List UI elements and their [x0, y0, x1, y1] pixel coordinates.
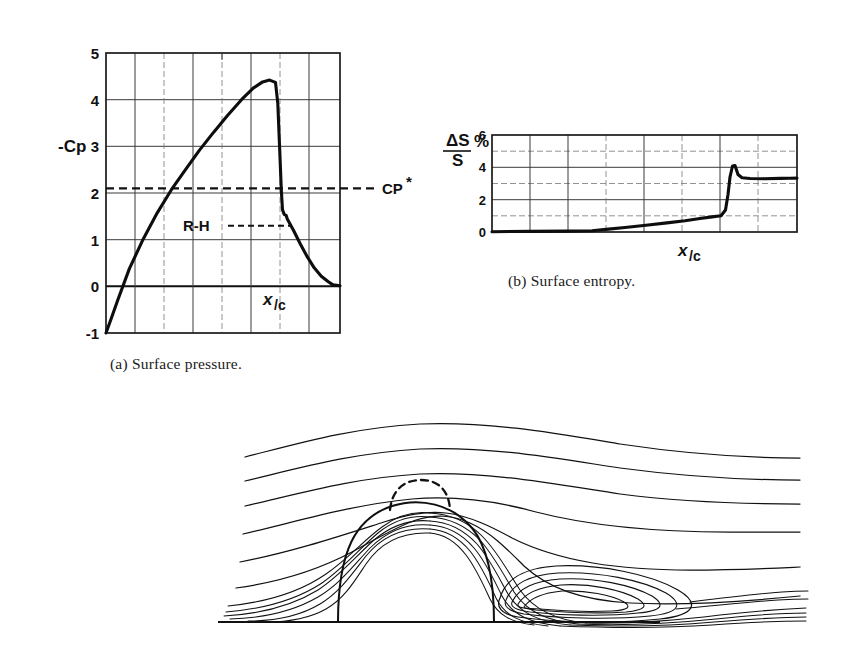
x-axis-label-a: x /c — [262, 290, 286, 313]
x-axis-label-b-main: x — [677, 241, 689, 260]
ytick-a-5: 0 — [91, 278, 99, 295]
ytick-b-2: 2 — [479, 193, 486, 208]
ytick-b-3: 0 — [479, 225, 486, 240]
y-axis-label-b-numerator: ΔS — [446, 131, 470, 150]
ytick-a-1: 4 — [91, 92, 100, 109]
y-ticklabels-a: 5 4 3 2 1 0 -1 — [86, 45, 100, 342]
grid-b — [492, 135, 797, 232]
panel-surface-entropy: 6 4 2 0 ΔS S % x /c — [430, 110, 843, 310]
y-axis-label-b-unit: % — [474, 132, 489, 151]
y-axis-label-a: -Cp — [58, 137, 86, 156]
cp-star-label: CP * — [382, 173, 412, 197]
streamlines-bump-upstream — [224, 513, 430, 622]
cp-star-text: CP — [382, 180, 403, 197]
ytick-a-6: -1 — [86, 325, 99, 342]
ytick-a-0: 5 — [91, 45, 99, 62]
streamlines-outer — [236, 424, 800, 604]
ytick-a-3: 2 — [91, 185, 99, 202]
x-axis-label-a-main: x — [262, 290, 274, 309]
pressure-curve — [106, 80, 340, 333]
ytick-b-1: 4 — [479, 160, 487, 175]
streamlines-crest — [430, 513, 586, 626]
caption-panel-a: (a) Surface pressure. — [110, 355, 242, 373]
caption-panel-b: (b) Surface entropy. — [508, 272, 635, 290]
x-axis-label-a-sub: /c — [274, 297, 286, 313]
cp-star-superscript: * — [406, 173, 412, 190]
ytick-a-4: 1 — [91, 232, 99, 249]
grid-a — [106, 53, 340, 333]
x-axis-label-b: x /c — [677, 241, 701, 264]
panel-surface-pressure: 5 4 3 2 1 0 -1 -Cp CP * R-H x /c — [0, 0, 430, 400]
ytick-a-2: 3 — [91, 138, 99, 155]
y-axis-label-b-denominator: S — [452, 151, 463, 170]
panel-streamline-pattern — [0, 410, 843, 666]
x-axis-label-b-sub: /c — [689, 248, 701, 264]
rankine-hugoniot-label: R-H — [183, 217, 210, 234]
